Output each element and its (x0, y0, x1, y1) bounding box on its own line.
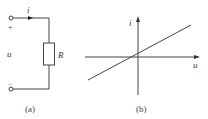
current-label: i (27, 5, 30, 15)
caption-b: (b) (136, 104, 147, 114)
y-axis-arrow-icon (136, 16, 140, 22)
iu-graph (85, 16, 200, 95)
plus-sign: + (8, 23, 13, 32)
minus-sign: − (8, 81, 12, 89)
voltage-label: u (7, 49, 12, 59)
caption-a: (a) (25, 104, 35, 114)
figure-canvas: i + u R − (a) i u (b) (0, 0, 208, 119)
circuit-diagram (9, 16, 55, 91)
x-axis-label: u (193, 60, 198, 70)
current-arrow-icon (28, 16, 33, 20)
top-terminal (9, 16, 13, 20)
resistor (44, 43, 55, 65)
resistor-label: R (57, 50, 64, 60)
x-axis-arrow-icon (194, 55, 200, 59)
y-axis-label: i (129, 18, 132, 28)
characteristic-line (88, 25, 191, 80)
